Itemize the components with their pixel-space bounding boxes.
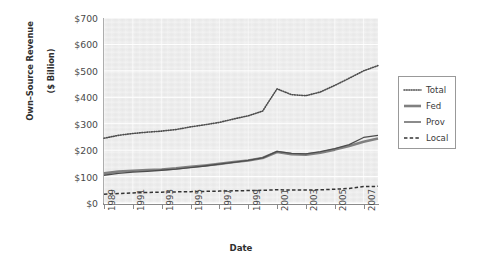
x-tick-mark	[277, 205, 278, 209]
x-tick-mark	[364, 205, 365, 209]
series-line-fed	[104, 139, 378, 174]
legend-item-local[interactable]: Local	[399, 130, 455, 146]
x-tick-mark	[191, 205, 192, 209]
legend-key-icon	[403, 101, 422, 111]
y-tick-label: $600	[52, 39, 98, 50]
y-axis-title: Own–Source Revenue ($ Billion)	[14, 0, 42, 151]
x-tick-mark	[306, 205, 307, 209]
x-tick-mark	[133, 205, 134, 209]
y-tick-label: $200	[52, 145, 98, 156]
x-tick-mark	[104, 205, 105, 209]
x-tick-label: 1989	[107, 189, 117, 211]
legend-label: Fed	[426, 101, 441, 111]
y-axis-tick-labels: $0$100$200$300$400$500$600$700	[52, 14, 98, 208]
x-tick-mark	[219, 205, 220, 209]
plot-area	[104, 18, 378, 203]
x-tick-mark	[335, 205, 336, 209]
series-line-total	[104, 66, 378, 139]
y-tick-label: $0	[52, 198, 98, 209]
y-axis-title-line1: Own–Source Revenue	[25, 0, 36, 151]
y-tick-label: $700	[52, 13, 98, 24]
x-tick-label: 2001	[280, 189, 290, 211]
legend-item-prov[interactable]: Prov	[399, 114, 455, 130]
y-tick-label: $100	[52, 171, 98, 182]
x-axis-title: Date	[104, 243, 378, 253]
y-tick-label: $500	[52, 65, 98, 76]
x-tick-label: 1991	[136, 189, 146, 211]
x-tick-label: 2005	[338, 189, 348, 211]
legend-label: Prov	[426, 117, 445, 127]
legend-label: Total	[426, 85, 446, 95]
y-tick-label: $400	[52, 92, 98, 103]
legend-key-icon	[403, 117, 422, 127]
revenue-line-chart: Own–Source Revenue ($ Billion) $0$100$20…	[0, 0, 479, 262]
plot-svg	[104, 18, 378, 203]
legend-key-icon	[403, 133, 422, 143]
x-tick-label: 1995	[194, 189, 204, 211]
chart-legend: TotalFedProvLocal	[398, 76, 456, 149]
legend-label: Local	[426, 133, 448, 143]
legend-key-icon	[403, 85, 422, 95]
x-tick-mark	[162, 205, 163, 209]
x-tick-label: 1993	[165, 189, 175, 211]
x-tick-mark	[248, 205, 249, 209]
legend-item-total[interactable]: Total	[399, 82, 455, 98]
y-tick-label: $300	[52, 118, 98, 129]
x-tick-label: 1997	[223, 189, 233, 211]
x-tick-label: 2003	[309, 189, 319, 211]
x-tick-label: 1999	[252, 189, 262, 211]
legend-item-fed[interactable]: Fed	[399, 98, 455, 114]
x-tick-label: 2007	[367, 189, 377, 211]
